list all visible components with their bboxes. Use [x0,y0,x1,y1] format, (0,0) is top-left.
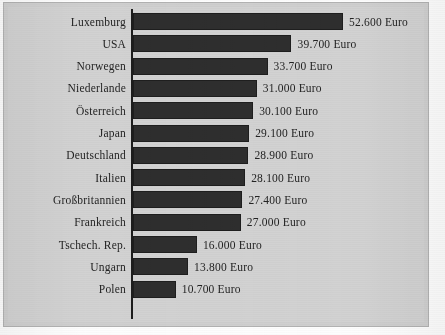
bar [133,80,257,97]
bar-row: Luxemburg52.600 Euro [0,13,445,30]
bar-value-label: 10.700 Euro [182,283,241,295]
bar [133,13,343,30]
bar-row: Deutschland28.900 Euro [0,147,445,164]
bar-value-label: 27.000 Euro [247,216,306,228]
bar [133,102,253,119]
bar-row: Ungarn13.800 Euro [0,258,445,275]
bar-value-label: 28.900 Euro [254,149,313,161]
category-label: Großbritannien [53,194,126,206]
bar-value-label: 27.400 Euro [248,194,307,206]
bar [133,281,176,298]
bar [133,147,248,164]
bar-value-label: 28.100 Euro [251,172,310,184]
bar-row: Tschech. Rep.16.000 Euro [0,236,445,253]
bar-row: Österreich30.100 Euro [0,102,445,119]
bar [133,258,188,275]
bar-row: Italien28.100 Euro [0,169,445,186]
bar [133,169,245,186]
category-label: Italien [95,172,126,184]
bar-value-label: 13.800 Euro [194,261,253,273]
bar-value-label: 39.700 Euro [297,38,356,50]
bar-row: USA39.700 Euro [0,35,445,52]
bar-row: Niederlande31.000 Euro [0,80,445,97]
bar-chart: Luxemburg52.600 EuroUSA39.700 EuroNorweg… [0,0,445,335]
chart-screenshot: Luxemburg52.600 EuroUSA39.700 EuroNorweg… [0,0,445,335]
category-label: Polen [99,283,126,295]
bar [133,191,242,208]
category-label: Deutschland [66,149,126,161]
bar-row: Norwegen33.700 Euro [0,58,445,75]
category-label: Ungarn [90,261,126,273]
bar-value-label: 31.000 Euro [263,82,322,94]
bar-row: Großbritannien27.400 Euro [0,191,445,208]
bar-row: Polen10.700 Euro [0,281,445,298]
category-label: Tschech. Rep. [59,239,126,251]
bar [133,125,249,142]
category-label: Frankreich [74,216,126,228]
bar-value-label: 29.100 Euro [255,127,314,139]
bar [133,214,241,231]
category-label: Österreich [76,105,126,117]
bar-row: Japan29.100 Euro [0,125,445,142]
bar-value-label: 30.100 Euro [259,105,318,117]
bar-value-label: 52.600 Euro [349,16,408,28]
bar-row: Frankreich27.000 Euro [0,214,445,231]
category-label: Niederlande [68,82,126,94]
bar-value-label: 33.700 Euro [274,60,333,72]
bar [133,58,268,75]
category-label: Japan [99,127,126,139]
bar-value-label: 16.000 Euro [203,239,262,251]
category-label: Norwegen [77,60,127,72]
bar [133,236,197,253]
category-label: USA [102,38,126,50]
bar [133,35,291,52]
category-label: Luxemburg [71,16,126,28]
